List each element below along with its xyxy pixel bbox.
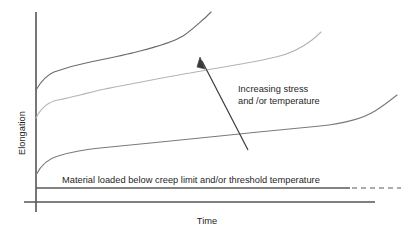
trend-annotation-line-1: Increasing stress [238, 84, 309, 94]
x-axis-label: Time [197, 216, 217, 226]
trend-annotation-line-2: and /or temperature [238, 96, 320, 106]
no-creep-annotation: Material loaded below creep limit and/or… [62, 175, 320, 185]
curve-highest-stress [36, 12, 211, 90]
curve-lowest-stress [36, 95, 397, 175]
creep-curves-group [36, 12, 397, 175]
y-axis-label: Elongation [17, 111, 27, 155]
arrow-head-icon [197, 57, 205, 69]
creep-chart-svg: Elongation Time Increasing stress and /o… [0, 0, 412, 237]
creep-diagram-figure: Elongation Time Increasing stress and /o… [0, 0, 412, 237]
